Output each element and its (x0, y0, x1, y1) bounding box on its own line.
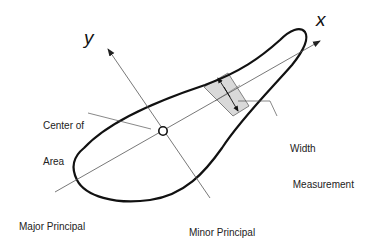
center-of-area-marker (159, 127, 167, 135)
width-measurement-label-line1: Width (290, 143, 354, 155)
center-of-area-leader (88, 113, 151, 129)
major-principal-axis-label: Major Principal Axis (19, 197, 85, 238)
center-of-area-label: Center of Area (43, 96, 84, 180)
center-of-area-label-line1: Center of (43, 120, 84, 132)
width-measurement-label-line2: Measurement (290, 179, 354, 191)
center-of-area-label-line2: Area (43, 156, 84, 168)
major-principal-axis-line (55, 41, 320, 192)
minor-principal-axis-label: Minor Principal Axis (189, 203, 255, 238)
y-axis-label: y (84, 28, 94, 48)
width-measurement-label: Width Measurement (290, 119, 354, 203)
minor-principal-axis-label-line1: Minor Principal (189, 227, 255, 238)
x-axis-label: x (316, 10, 326, 30)
minor-principal-axis-line (108, 49, 210, 198)
major-principal-axis-label-line1: Major Principal (19, 221, 85, 233)
